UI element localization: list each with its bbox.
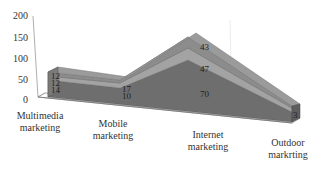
category-label-line: markrting	[253, 149, 323, 161]
category-internet: Internet marketing	[173, 129, 243, 153]
label-mobile-s1: 10	[122, 91, 132, 101]
category-multimedia: Multimedia marketing	[5, 110, 75, 134]
category-label-line: marketing	[173, 141, 243, 153]
category-label-line: Internet	[173, 129, 243, 141]
label-internet-s2: 47	[200, 64, 210, 74]
category-outdoor: Outdoor markrting	[253, 137, 323, 161]
category-mobile: Mobile marketing	[78, 118, 148, 142]
label-outdoor: 3	[293, 110, 298, 120]
label-internet-s1: 70	[200, 89, 210, 99]
y-axis-line	[33, 16, 38, 97]
category-label-line: marketing	[5, 122, 75, 134]
label-multimedia-s1: 14	[51, 85, 61, 95]
label-internet-s3: 43	[200, 42, 210, 52]
stacked-area-chart-3d: 200 150 100 50 0 12 12 14 17 10 43 47 70…	[0, 0, 326, 169]
category-label-line: marketing	[78, 130, 148, 142]
category-label-line: Multimedia	[5, 110, 75, 122]
category-label-line: Outdoor	[253, 137, 323, 149]
category-label-line: Mobile	[78, 118, 148, 130]
